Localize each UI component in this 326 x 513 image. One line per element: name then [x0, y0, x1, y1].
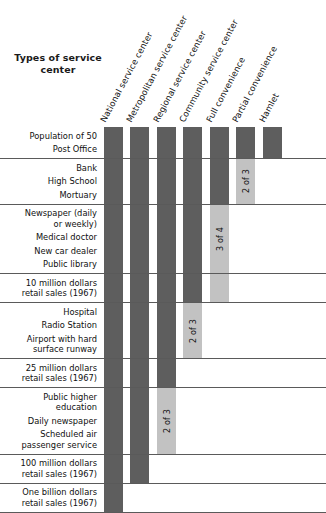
bar-regional-service-center — [157, 127, 176, 158]
row-label-group: One billion dollars retail sales (1967) — [0, 484, 101, 512]
row-label: Post Office — [0, 143, 97, 157]
row-label: Hospital — [0, 305, 97, 319]
row-label-group: 25 million dollars retail sales (1967) — [0, 359, 101, 387]
row-label: High School — [0, 175, 97, 189]
bar-partial-convenience — [236, 127, 255, 158]
bar-regional-service-center — [157, 159, 176, 204]
bar-metropolitan-service-center — [130, 303, 149, 358]
bar-metropolitan-service-center — [130, 388, 149, 454]
row-group: One billion dollars retail sales (1967) — [0, 484, 326, 513]
row-label: 100 million dollars retail sales (1967) — [0, 457, 97, 481]
row-group: 100 million dollars retail sales (1967) — [0, 455, 326, 484]
page-title: Types of service center — [12, 52, 104, 76]
row-label-group: Newspaper (daily or weekly)Medical docto… — [0, 205, 101, 274]
row-label: One billion dollars retail sales (1967) — [0, 486, 97, 510]
row-label: Bank — [0, 161, 97, 175]
row-label-group: 10 million dollars retail sales (1967) — [0, 274, 101, 302]
bar-metropolitan-service-center — [130, 205, 149, 274]
bar-community-service-center — [183, 127, 202, 158]
row-label-group: BankHigh SchoolMortuary — [0, 159, 101, 204]
bar-metropolitan-service-center — [130, 455, 149, 483]
row-label: Population of 50 — [0, 129, 97, 143]
row-label: Radio Station — [0, 319, 97, 333]
row-label: Public higher education — [0, 390, 97, 414]
row-label: 10 million dollars retail sales (1967) — [0, 276, 97, 300]
bar-full-convenience — [210, 127, 229, 158]
row-group: Population of 50Post Office — [0, 126, 326, 159]
bar-national-service-center — [104, 159, 123, 204]
row-group: 25 million dollars retail sales (1967) — [0, 359, 326, 388]
row-group: 10 million dollars retail sales (1967) — [0, 274, 326, 303]
bar-metropolitan-service-center — [130, 359, 149, 387]
bar-metropolitan-service-center — [130, 127, 149, 158]
bar-hamlet — [263, 127, 282, 158]
row-group: 2 of 3Public higher educationDaily newsp… — [0, 388, 326, 455]
bar-regional-service-center: 2 of 3 — [157, 388, 176, 454]
row-label-group: HospitalRadio StationAirport with hard s… — [0, 303, 101, 358]
row-group: 2 of 3HospitalRadio StationAirport with … — [0, 303, 326, 359]
row-label-group: Population of 50Post Office — [0, 127, 101, 158]
row-label: Mortuary — [0, 188, 97, 202]
chart-header-area: Types of service center National service… — [0, 0, 326, 126]
row-label: 25 million dollars retail sales (1967) — [0, 361, 97, 385]
chart-rows-area: Population of 50Post Office2 of 3BankHig… — [0, 126, 326, 470]
bar-national-service-center — [104, 388, 123, 454]
bar-community-service-center — [183, 274, 202, 302]
bar-national-service-center — [104, 205, 123, 274]
bar-metropolitan-service-center — [130, 274, 149, 302]
bar-regional-service-center — [157, 274, 176, 302]
row-label: Airport with hard surface runway — [0, 332, 97, 356]
bar-national-service-center — [104, 359, 123, 387]
row-label: Medical doctor — [0, 231, 97, 245]
bar-national-service-center — [104, 455, 123, 483]
column-header-7: Hamlet — [258, 92, 281, 124]
row-label: Daily newspaper — [0, 414, 97, 428]
bar-partial-convenience: 2 of 3 — [236, 159, 255, 204]
bar-regional-service-center — [157, 303, 176, 358]
bar-community-service-center — [183, 205, 202, 274]
row-group: 3 of 4Newspaper (daily or weekly)Medical… — [0, 205, 326, 275]
row-group: 2 of 3BankHigh SchoolMortuary — [0, 159, 326, 205]
bar-full-convenience — [210, 159, 229, 204]
bar-annotation: 3 of 4 — [215, 227, 224, 251]
row-label-group: 100 million dollars retail sales (1967) — [0, 455, 101, 483]
bar-community-service-center — [183, 159, 202, 204]
row-label: New car dealer — [0, 244, 97, 258]
bar-national-service-center — [104, 127, 123, 158]
row-label-group: Public higher educationDaily newspaperSc… — [0, 388, 101, 454]
row-label: Scheduled air passenger service — [0, 428, 97, 452]
bar-regional-service-center — [157, 205, 176, 274]
bar-full-convenience — [210, 274, 229, 302]
bar-national-service-center — [104, 274, 123, 302]
bar-full-convenience: 3 of 4 — [210, 205, 229, 274]
bar-regional-service-center — [157, 359, 176, 387]
bar-community-service-center: 2 of 3 — [183, 303, 202, 358]
bar-annotation: 2 of 3 — [188, 318, 197, 342]
row-label: Newspaper (daily or weekly) — [0, 207, 97, 231]
bar-metropolitan-service-center — [130, 159, 149, 204]
bar-annotation: 2 of 3 — [241, 169, 250, 193]
bar-national-service-center — [104, 303, 123, 358]
row-label: Public library — [0, 258, 97, 272]
bar-national-service-center — [104, 484, 123, 512]
bar-annotation: 2 of 3 — [162, 409, 171, 433]
